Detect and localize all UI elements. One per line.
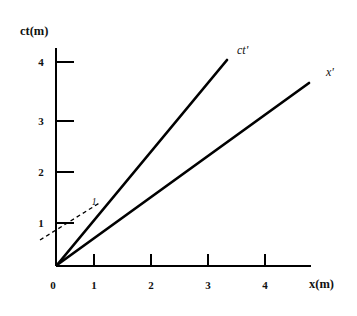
- y-axis-title: ct(m): [20, 25, 48, 38]
- y-tick-label-4: 4: [38, 57, 44, 68]
- y-tick-label-1: 1: [38, 218, 44, 229]
- y-tick-label-3: 3: [38, 116, 44, 127]
- x-tick-label-0: 0: [50, 280, 56, 291]
- ct-prime-label: ct': [237, 44, 248, 56]
- x-tick-label-1: 1: [91, 280, 97, 291]
- x-tick-label-2: 2: [148, 280, 154, 291]
- x-prime-line: [57, 83, 309, 265]
- diagram-canvas: [0, 0, 357, 316]
- x-tick-label-4: 4: [262, 280, 268, 291]
- spacetime-diagram: ct(m) x(m) 4 3 2 1 0 1 2 3 4 ct' x' 1: [0, 0, 357, 316]
- ct-prime-line: [57, 60, 227, 265]
- x-tick-label-3: 3: [205, 280, 211, 291]
- y-tick-label-2: 2: [38, 167, 44, 178]
- x-axis-title: x(m): [309, 278, 334, 291]
- unit-point-label: 1: [92, 198, 97, 208]
- x-prime-label: x': [326, 66, 334, 78]
